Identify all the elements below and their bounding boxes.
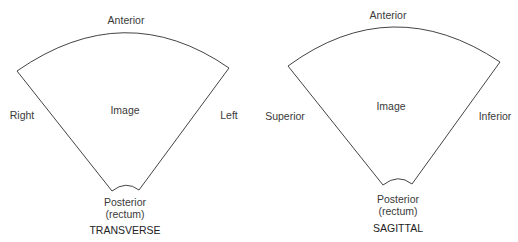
transverse-anterior-label: Anterior: [108, 14, 145, 26]
sagittal-rectum-label: (rectum): [378, 205, 417, 217]
transverse-left-label: Left: [220, 109, 238, 121]
sagittal-anterior-label: Anterior: [370, 9, 407, 21]
transverse-right-label: Right: [10, 109, 35, 121]
transverse-image-label: Image: [110, 104, 139, 116]
sagittal-image-label: Image: [376, 100, 405, 112]
sagittal-superior-label: Superior: [265, 110, 305, 122]
diagram-canvas: [0, 0, 518, 242]
sagittal-inferior-label: Inferior: [479, 110, 512, 122]
transverse-title: TRANSVERSE: [89, 224, 160, 236]
sagittal-title: SAGITTAL: [373, 222, 423, 234]
transverse-rectum-label: (rectum): [105, 208, 144, 220]
transverse-posterior-label: Posterior: [104, 196, 146, 208]
sagittal-posterior-label: Posterior: [377, 193, 419, 205]
